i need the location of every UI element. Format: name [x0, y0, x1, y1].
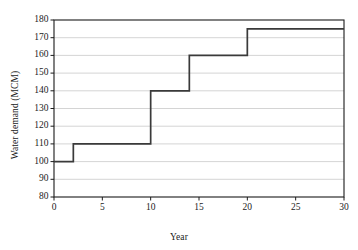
chart-container: Water demand (MCM) Year 8090100110120130…: [0, 0, 358, 250]
y-axis-tick-label: 140: [21, 85, 49, 95]
x-axis-tick-label: 20: [232, 202, 262, 212]
y-axis-tick-label: 90: [21, 173, 49, 183]
chart-plot: [0, 0, 358, 250]
y-axis-tick-label: 120: [21, 120, 49, 130]
y-axis-tick-label: 160: [21, 49, 49, 59]
y-axis-title: Water demand (MCM): [10, 55, 20, 175]
y-axis-tick-label: 80: [21, 191, 49, 201]
x-axis-tick-label: 25: [281, 202, 311, 212]
x-axis-tick-label: 0: [39, 202, 69, 212]
y-axis-tick-label: 100: [21, 156, 49, 166]
y-axis-tick-label: 150: [21, 67, 49, 77]
x-axis-tick-label: 15: [184, 202, 214, 212]
y-axis-tick-label: 180: [21, 14, 49, 24]
x-axis-tick-label: 10: [136, 202, 166, 212]
y-axis-tick-label: 110: [21, 138, 49, 148]
x-axis-tick-label: 30: [329, 202, 358, 212]
x-axis-title: Year: [0, 232, 358, 242]
y-axis-tick-label: 130: [21, 103, 49, 113]
y-axis-tick-label: 170: [21, 32, 49, 42]
x-axis-tick-label: 5: [87, 202, 117, 212]
data-series-line: [54, 29, 344, 162]
